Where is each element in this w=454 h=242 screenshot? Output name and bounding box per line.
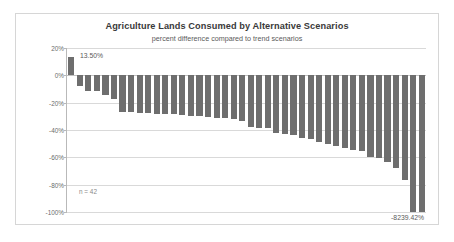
- y-tick-label: 0%: [55, 72, 64, 79]
- bar: [111, 75, 117, 99]
- bar: [85, 75, 91, 91]
- last-bar-data-label: -8239.42%: [391, 214, 424, 221]
- bar: [94, 75, 100, 91]
- bar: [231, 75, 237, 119]
- bar: [196, 75, 202, 116]
- y-tick-label: -40%: [49, 127, 64, 134]
- bar: [419, 75, 425, 212]
- bar: [256, 75, 262, 128]
- bar: [248, 75, 254, 126]
- bar: [102, 75, 108, 95]
- bar: [137, 75, 143, 113]
- bar: [265, 75, 271, 128]
- y-tick-label: -20%: [49, 99, 64, 106]
- bar: [282, 75, 288, 134]
- bar: [179, 75, 185, 115]
- bar: [171, 75, 177, 114]
- bar: [222, 75, 228, 118]
- bar: [410, 75, 416, 212]
- chart-title: Agriculture Lands Consumed by Alternativ…: [16, 21, 438, 31]
- bar: [402, 75, 408, 180]
- bar: [68, 57, 74, 75]
- bar: [376, 75, 382, 158]
- y-tick-label: 20%: [51, 45, 64, 52]
- bar-series: [67, 48, 426, 212]
- plot-area: 20%0%-20%-40%-60%-80%-100% n = 42 13.50%…: [66, 48, 426, 213]
- bar: [239, 75, 245, 121]
- chart-frame: Agriculture Lands Consumed by Alternativ…: [15, 13, 439, 225]
- bar: [77, 75, 83, 85]
- bar: [299, 75, 305, 137]
- sample-size-annotation: n = 42: [79, 188, 97, 195]
- first-bar-data-label: 13.50%: [80, 52, 103, 59]
- bar: [205, 75, 211, 117]
- bar: [367, 75, 373, 157]
- bar: [188, 75, 194, 115]
- bar: [154, 75, 160, 113]
- y-tick-mark: [64, 212, 67, 213]
- bar: [214, 75, 220, 117]
- bar: [350, 75, 356, 150]
- y-tick-label: -80%: [49, 181, 64, 188]
- bar: [273, 75, 279, 133]
- bar: [308, 75, 314, 139]
- bar: [119, 75, 125, 111]
- bar: [393, 75, 399, 167]
- bar: [128, 75, 134, 112]
- bar: [325, 75, 331, 143]
- bar: [145, 75, 151, 113]
- y-tick-label: -100%: [46, 209, 64, 216]
- y-tick-label: -60%: [49, 154, 64, 161]
- bar: [290, 75, 296, 134]
- bar: [162, 75, 168, 113]
- bar: [333, 75, 339, 145]
- bar: [359, 75, 365, 151]
- bar: [342, 75, 348, 148]
- bar: [384, 75, 390, 162]
- chart-subtitle: percent difference compared to trend sce…: [16, 34, 438, 43]
- bar: [316, 75, 322, 141]
- gridline: [67, 212, 426, 213]
